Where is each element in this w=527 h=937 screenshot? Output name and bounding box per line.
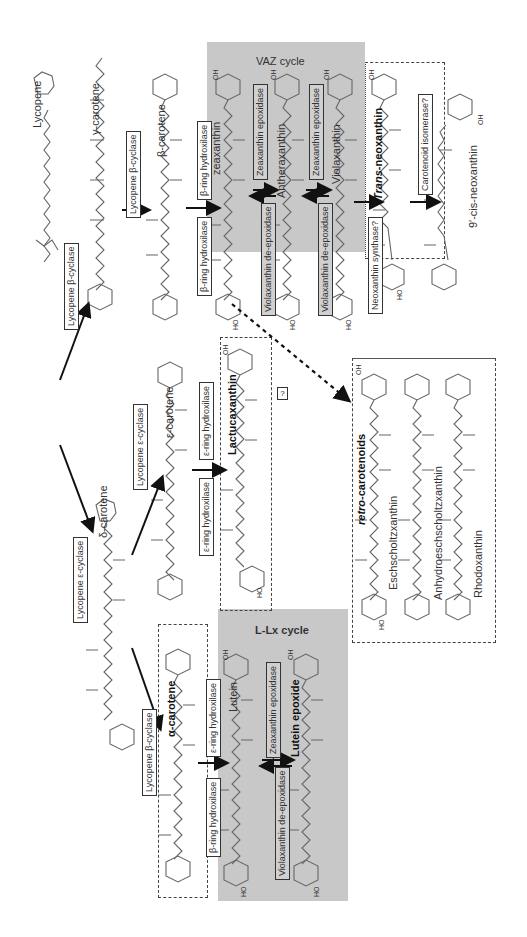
label-lycopene: Lycopene <box>32 81 43 128</box>
enzyme-eps-ring-hydroxilase-b: ε-ring hydroxilase <box>199 478 214 556</box>
oh-antheraxanthin: OH <box>270 70 277 81</box>
oh-lutein: OH <box>222 650 229 661</box>
label-eschscholtzxanthin: Eschscholtzxanthin <box>388 496 399 590</box>
ho-zeaxanthin: HO <box>232 320 239 331</box>
oh-lutein-epoxide: OH <box>287 650 294 661</box>
label-epsilon-carotene: ε-carotene <box>164 387 175 438</box>
enzyme-beta-ring-hydroxilase-a: β-ring hydroxilase <box>197 121 212 200</box>
carotenoids-suffix: -carotenoids <box>355 434 367 500</box>
oh-neoxanthin: OH <box>368 70 375 81</box>
enzyme-beta-ring-hydroxilase-b: β-ring hydroxilase <box>197 217 212 296</box>
oh-violaxanthin: OH <box>323 70 330 81</box>
enzyme-zeaxanthin-epoxidase-1: Zeaxanthin epoxidase <box>253 84 268 180</box>
label-zeaxanthin: zeaxanthin <box>211 122 222 175</box>
ho-eschscholtzxanthin: HO <box>378 620 385 631</box>
ho-neoxanthin: HO <box>396 290 403 301</box>
enzyme-eps-ring-hydroxilase-a: ε-ring hydroxilase <box>199 382 214 460</box>
oh-zeaxanthin: OH <box>212 70 219 81</box>
label-retro-carotenoids: retro-carotenoids <box>356 434 367 525</box>
label-lutein: Lutein <box>228 682 239 712</box>
oh-eschscholtzxanthin: OH <box>355 365 362 376</box>
label-rhodoxanthin: Rhodoxanthin <box>473 530 484 598</box>
retro-prefix: retro <box>355 500 367 525</box>
ho-violaxanthin: HO <box>345 320 352 331</box>
label-cis-neoxanthin: 9′-cis-neoxanthin <box>468 145 479 228</box>
label-antheraxanthin: Antheraxanthin <box>276 124 287 198</box>
enzyme-carotenoid-isomerase: Carotenoid isomerase? <box>418 94 433 195</box>
unknown-step-box: ? <box>277 387 288 400</box>
trans-prefix: Trans <box>372 170 384 200</box>
enzyme-beta-ring-hydroxilase-lutein: β-ring hydroxilase <box>206 778 221 857</box>
label-delta-carotene: δ-carotene <box>98 485 109 538</box>
enzyme-lycopene-beta-cyclase-alpha: Lycopene β-cyclase <box>142 709 157 796</box>
neoxanthin-suffix: -neoxanthin <box>372 108 384 170</box>
enzyme-zeaxanthin-epoxidase-2: Zeaxanthin epoxidase <box>309 84 324 180</box>
oh-lactucaxanthin: OH <box>222 345 229 356</box>
enzyme-zeaxanthin-epoxidase-lx: Zeaxanthin epoxidase <box>266 662 281 758</box>
enzyme-lycopene-beta-cyclase-gamma: Lycopene β-cyclase <box>126 131 141 218</box>
enzyme-eps-ring-hydroxilase-lutein: ε-ring hydroxilase <box>206 679 221 757</box>
label-gamma-carotene: γ-carotene <box>90 83 101 135</box>
enzyme-violaxanthin-deepoxidase-1: Violaxanthin de-epoxidase <box>261 203 276 316</box>
enzyme-neoxanthin-synthase: Neoxanthin synthase? <box>368 217 383 314</box>
molecule-chains <box>34 58 475 886</box>
ho-antheraxanthin: HO <box>289 320 296 331</box>
enzyme-lycopene-beta-cyclase-top: Lycopene β-cyclase <box>64 243 79 330</box>
enzyme-lycopene-epsilon-cyclase-delta: Lycopene ε-cyclase <box>73 537 88 623</box>
enzyme-violaxanthin-deepoxidase-2: Violaxanthin de-epoxidase <box>318 203 333 316</box>
label-lactucaxanthin: Lactucaxanthin <box>227 374 238 455</box>
enzyme-violaxanthin-deepoxidase-lx: Violaxanthin de-epoxidase <box>275 767 290 880</box>
ho-lutein: HO <box>240 887 247 898</box>
enzyme-lycopene-epsilon-cyclase-eps: Lycopene ε-cyclase <box>133 404 148 490</box>
label-violaxanthin: Violaxanthin <box>331 124 342 184</box>
ho-lutein-epoxide: HO <box>313 887 320 898</box>
label-anhydroeschscholtzxanthin: Anhydroeschscholtzxanthin <box>433 466 444 600</box>
label-lutein-epoxide: Lutein epoxide <box>290 679 301 757</box>
label-trans-neoxanthin: Trans-neoxanthin <box>373 108 384 200</box>
ho-lactucaxanthin: HO <box>256 588 263 599</box>
label-alpha-carotene: α-carotene <box>166 681 177 737</box>
ho-cis-neoxanthin: OH <box>477 115 484 126</box>
label-beta-carotene: β-carotene <box>156 104 167 157</box>
